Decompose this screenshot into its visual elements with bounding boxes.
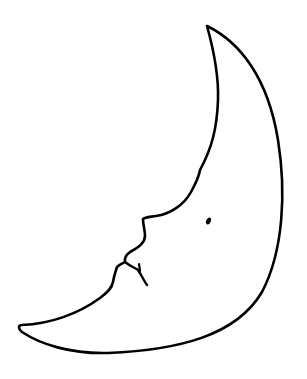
crescent-outline	[19, 26, 282, 353]
lip-tick	[139, 264, 140, 271]
moon-illustration	[0, 0, 307, 379]
moon-drawing-canvas	[0, 0, 307, 379]
